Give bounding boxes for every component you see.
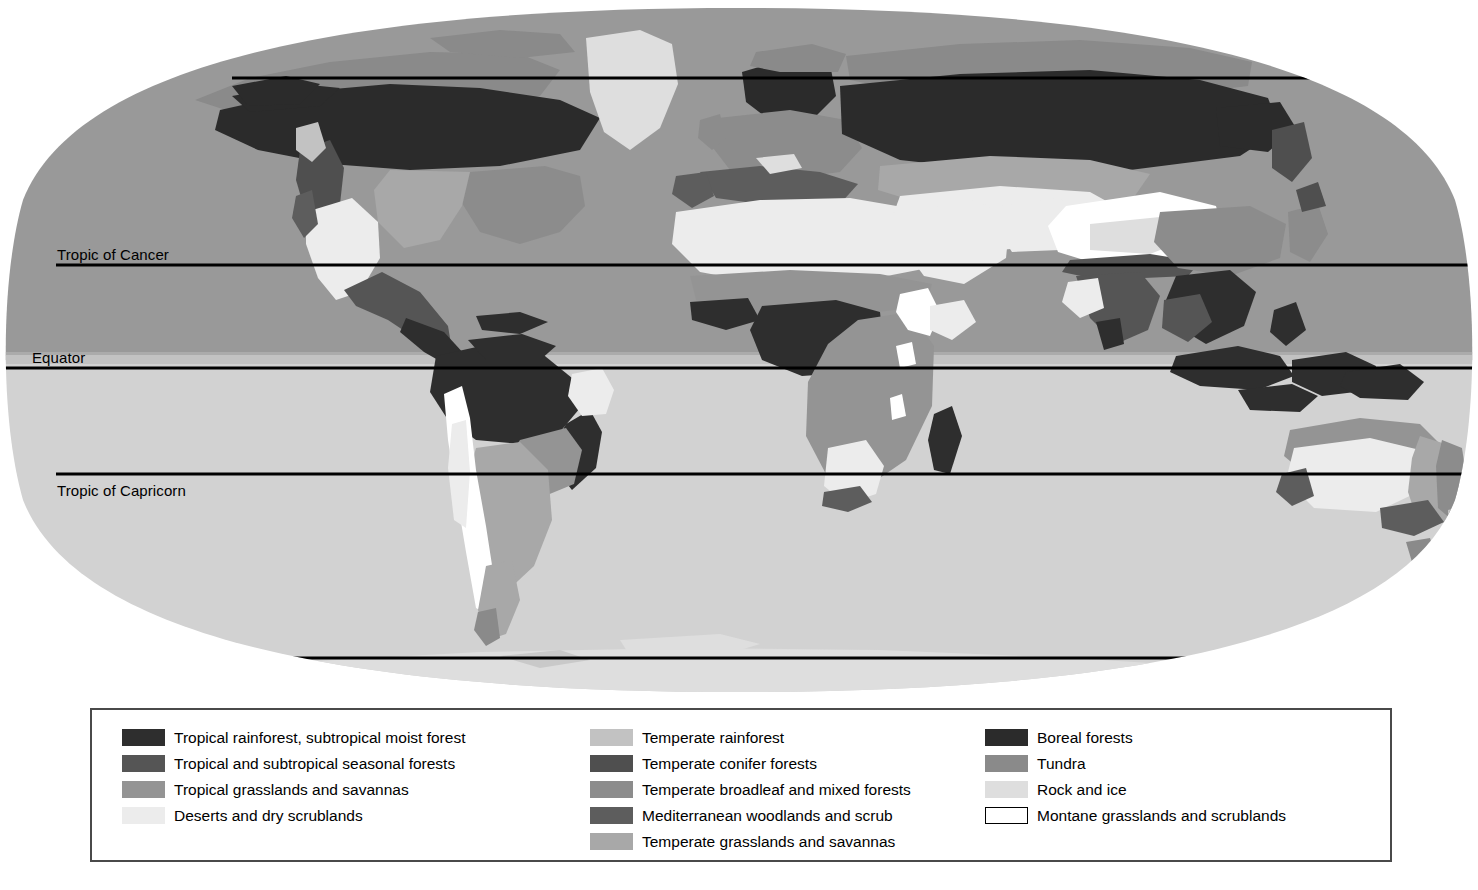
legend-item-label: Rock and ice — [1037, 781, 1127, 798]
legend-item: Deserts and dry scrublands — [122, 802, 590, 828]
legend-swatch-icon — [985, 755, 1028, 772]
legend: Tropical rainforest, subtropical moist f… — [90, 708, 1392, 862]
legend-item: Temperate rainforest — [590, 724, 985, 750]
legend-swatch-icon — [590, 833, 633, 850]
legend-item: Tropical rainforest, subtropical moist f… — [122, 724, 590, 750]
legend-item: Rock and ice — [985, 776, 1286, 802]
legend-item-label: Temperate broadleaf and mixed forests — [642, 781, 911, 798]
map-graphic — [0, 0, 1478, 700]
legend-swatch-icon — [985, 729, 1028, 746]
legend-item: Temperate grasslands and savannas — [590, 828, 985, 854]
legend-swatch-icon — [590, 729, 633, 746]
legend-item-label: Temperate conifer forests — [642, 755, 817, 772]
legend-swatch-icon — [590, 781, 633, 798]
legend-item: Temperate conifer forests — [590, 750, 985, 776]
legend-item-label: Tundra — [1037, 755, 1086, 772]
legend-item-label: Boreal forests — [1037, 729, 1133, 746]
legend-item: Tropical grasslands and savannas — [122, 776, 590, 802]
legend-item: Temperate broadleaf and mixed forests — [590, 776, 985, 802]
legend-item-label: Tropical and subtropical seasonal forest… — [174, 755, 455, 772]
legend-item-label: Mediterranean woodlands and scrub — [642, 807, 893, 824]
equator-label: Equator — [32, 349, 85, 366]
legend-item-label: Tropical grasslands and savannas — [174, 781, 409, 798]
legend-item-label: Deserts and dry scrublands — [174, 807, 363, 824]
legend-swatch-icon — [122, 781, 165, 798]
legend-swatch-icon — [590, 807, 633, 824]
legend-item-label: Montane grasslands and scrublands — [1037, 807, 1286, 824]
legend-columns: Tropical rainforest, subtropical moist f… — [92, 710, 1390, 860]
legend-column-tropical-and-desert-biomes: Tropical rainforest, subtropical moist f… — [122, 724, 590, 860]
legend-swatch-icon — [590, 755, 633, 772]
legend-item: Mediterranean woodlands and scrub — [590, 802, 985, 828]
legend-item-label: Temperate rainforest — [642, 729, 784, 746]
legend-item-label: Tropical rainforest, subtropical moist f… — [174, 729, 465, 746]
legend-item: Tundra — [985, 750, 1286, 776]
legend-item: Boreal forests — [985, 724, 1286, 750]
legend-item-label: Temperate grasslands and savannas — [642, 833, 895, 850]
legend-swatch-icon — [985, 807, 1028, 824]
world-biome-map-figure: Tropic of Cancer Equator Tropic of Capri… — [0, 0, 1478, 890]
legend-swatch-icon — [122, 729, 165, 746]
tropic-of-capricorn-label: Tropic of Capricorn — [57, 482, 186, 499]
legend-item: Tropical and subtropical seasonal forest… — [122, 750, 590, 776]
tropic-of-cancer-label: Tropic of Cancer — [57, 246, 169, 263]
map-panel: Tropic of Cancer Equator Tropic of Capri… — [0, 0, 1478, 700]
legend-swatch-icon — [122, 807, 165, 824]
map-body — [0, 0, 1478, 700]
legend-swatch-icon — [122, 755, 165, 772]
legend-column-boreal-polar-and-montane-biomes: Boreal forests Tundra Rock and ice Monta… — [985, 724, 1286, 860]
legend-item: Montane grasslands and scrublands — [985, 802, 1286, 828]
legend-swatch-icon — [985, 781, 1028, 798]
legend-column-temperate-biomes: Temperate rainforest Temperate conifer f… — [590, 724, 985, 860]
